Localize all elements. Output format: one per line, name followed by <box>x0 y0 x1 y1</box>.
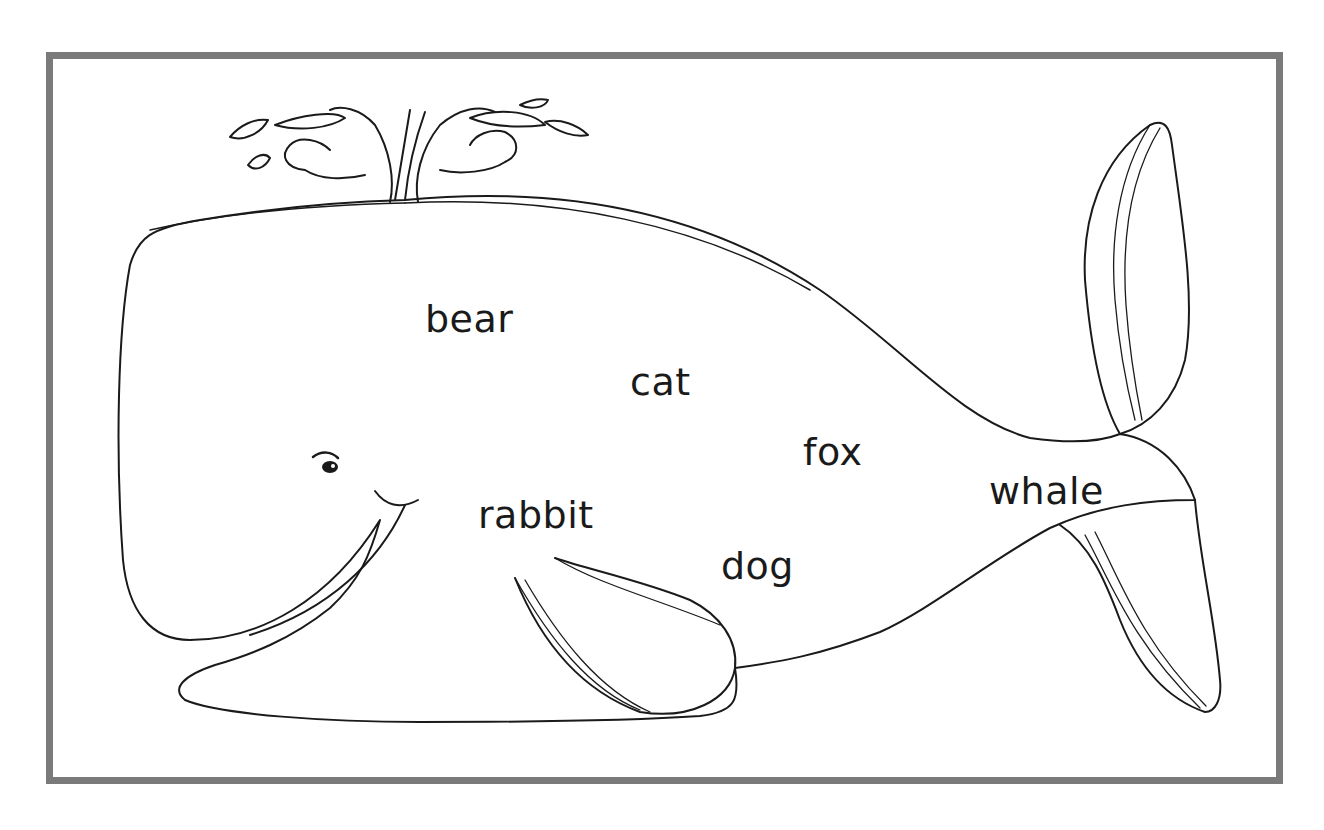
whale-body <box>119 196 1195 722</box>
whale-tail-lower <box>1060 500 1220 712</box>
whale-fin <box>515 558 735 714</box>
whale-tail-upper <box>1085 123 1189 434</box>
whale-smile <box>375 491 418 505</box>
word-rabbit: rabbit <box>478 496 594 534</box>
word-whale: whale <box>989 472 1104 510</box>
word-dog: dog <box>721 547 794 585</box>
word-bear: bear <box>425 300 513 338</box>
word-fox: fox <box>803 433 862 471</box>
whale-eye <box>322 461 338 473</box>
whale-illustration <box>0 0 1324 830</box>
water-spout <box>230 99 588 202</box>
whale-mouth <box>250 505 405 635</box>
word-cat: cat <box>630 363 691 401</box>
whale-eyelid <box>313 453 338 458</box>
